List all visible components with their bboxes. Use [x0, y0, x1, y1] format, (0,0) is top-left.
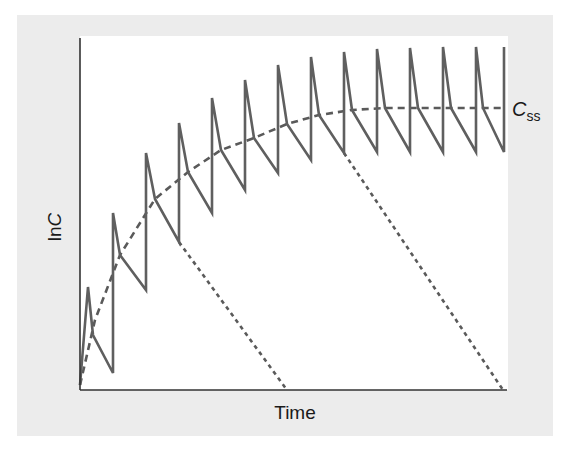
steady-state-label: Css: [512, 98, 540, 124]
x-axis-label: Time: [240, 402, 350, 424]
y-axis-label: lnC: [40, 202, 70, 252]
chart-plot: [0, 0, 579, 453]
